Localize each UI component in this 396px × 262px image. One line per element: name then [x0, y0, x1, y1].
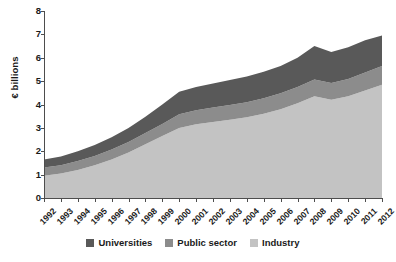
x-tick-mark — [348, 199, 349, 202]
x-tick-mark — [162, 199, 163, 202]
y-tick-mark — [41, 81, 44, 82]
x-tick-mark — [213, 199, 214, 202]
legend-label: Universities — [98, 238, 152, 248]
x-tick-mark — [314, 199, 315, 202]
x-tick-mark — [95, 199, 96, 202]
x-tick-mark — [230, 199, 231, 202]
chart-legend: UniversitiesPublic sectorIndustry — [0, 238, 386, 248]
x-tick-mark — [365, 199, 366, 202]
x-tick-mark — [247, 199, 248, 202]
y-tick-mark — [41, 34, 44, 35]
legend-label: Industry — [262, 238, 299, 248]
legend-swatch-icon — [250, 239, 258, 247]
legend-item-public-sector[interactable]: Public sector — [165, 238, 237, 248]
x-tick-mark — [264, 199, 265, 202]
x-tick-mark — [44, 199, 45, 202]
y-tick-mark — [41, 11, 44, 12]
legend-label: Public sector — [177, 238, 237, 248]
x-tick-mark — [179, 199, 180, 202]
y-tick-mark — [41, 105, 44, 106]
y-axis-line — [44, 11, 45, 199]
x-tick-mark — [112, 199, 113, 202]
x-tick-mark — [281, 199, 282, 202]
x-tick-mark — [382, 199, 383, 202]
y-tick-mark — [41, 128, 44, 129]
y-tick-mark — [41, 175, 44, 176]
x-tick-mark — [129, 199, 130, 202]
x-tick-mark — [196, 199, 197, 202]
y-tick-mark — [41, 151, 44, 152]
y-tick-mark — [41, 58, 44, 59]
y-axis-title: € billions — [9, 38, 20, 118]
area-series-group — [44, 11, 382, 198]
legend-swatch-icon — [165, 239, 173, 247]
x-tick-mark — [78, 199, 79, 202]
x-tick-mark — [298, 199, 299, 202]
plot-area: 876543210 199219931994199519961997199819… — [44, 11, 382, 198]
x-tick-mark — [61, 199, 62, 202]
x-tick-mark — [145, 199, 146, 202]
legend-swatch-icon — [86, 239, 94, 247]
legend-item-universities[interactable]: Universities — [86, 238, 152, 248]
legend-item-industry[interactable]: Industry — [250, 238, 299, 248]
x-tick-mark — [331, 199, 332, 202]
